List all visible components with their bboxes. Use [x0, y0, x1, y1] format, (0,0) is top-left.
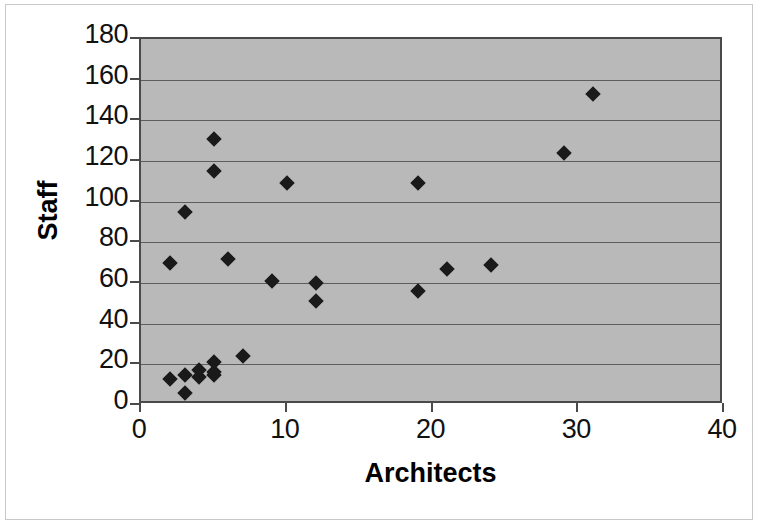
y-tick-mark [130, 78, 139, 80]
gridline [141, 283, 720, 284]
x-tick-label: 40 [687, 414, 757, 445]
y-tick-label: 60 [48, 263, 128, 294]
x-tick-label: 20 [396, 414, 466, 445]
data-point [308, 294, 324, 310]
y-tick-label: 140 [48, 100, 128, 131]
y-tick-mark [130, 281, 139, 283]
data-point [162, 255, 178, 271]
data-point [162, 371, 178, 387]
y-tick-label: 120 [48, 141, 128, 172]
y-tick-mark [130, 200, 139, 202]
y-tick-mark [130, 118, 139, 120]
gridline [141, 202, 720, 203]
data-point [235, 348, 251, 364]
x-axis-title: Architects [139, 458, 722, 489]
data-point [410, 176, 426, 192]
data-point [264, 273, 280, 289]
y-tick-mark [130, 322, 139, 324]
y-tick-label: 160 [48, 60, 128, 91]
x-tick-label: 30 [541, 414, 611, 445]
y-tick-label: 100 [48, 182, 128, 213]
y-tick-mark [130, 240, 139, 242]
y-tick-label: 0 [48, 385, 128, 416]
x-tick-mark [576, 403, 578, 412]
data-point [206, 131, 222, 147]
scatter-plot-figure: Staff 020406080100120140160180 010203040… [0, 0, 759, 527]
y-tick-mark [130, 403, 139, 405]
x-tick-label: 10 [250, 414, 320, 445]
data-point [279, 176, 295, 192]
x-tick-mark [722, 403, 724, 412]
x-tick-mark [285, 403, 287, 412]
y-tick-mark [130, 159, 139, 161]
data-point [483, 257, 499, 273]
gridline [141, 161, 720, 162]
data-point [177, 367, 193, 383]
data-point [410, 283, 426, 299]
data-point [177, 204, 193, 220]
y-tick-label: 40 [48, 304, 128, 335]
data-point [177, 385, 193, 401]
gridline [141, 120, 720, 121]
data-point [308, 275, 324, 291]
gridline [141, 324, 720, 325]
gridline [141, 364, 720, 365]
data-point [206, 355, 222, 371]
data-point [206, 163, 222, 179]
y-tick-label: 20 [48, 344, 128, 375]
plot-area [139, 37, 722, 403]
data-point [439, 261, 455, 277]
data-point [585, 86, 601, 102]
gridline [141, 80, 720, 81]
data-point [221, 251, 237, 267]
x-tick-mark [431, 403, 433, 412]
y-tick-mark [130, 37, 139, 39]
gridline [141, 242, 720, 243]
y-tick-label: 180 [48, 19, 128, 50]
y-tick-mark [130, 362, 139, 364]
data-point [556, 145, 572, 161]
x-tick-label: 0 [104, 414, 174, 445]
x-tick-mark [139, 403, 141, 412]
y-tick-label: 80 [48, 222, 128, 253]
